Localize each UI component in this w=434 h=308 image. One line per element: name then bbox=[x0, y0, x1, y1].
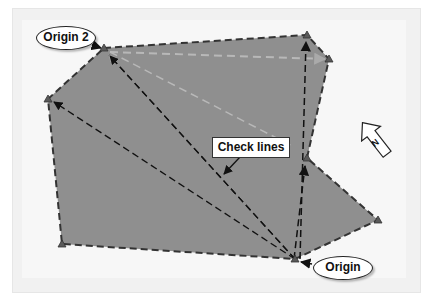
origin2-pointer bbox=[92, 45, 101, 48]
origin-label: Origin bbox=[325, 260, 360, 274]
origin-pointer bbox=[301, 262, 312, 264]
origin-callout: Origin bbox=[313, 256, 373, 280]
check-lines-label: Check lines bbox=[218, 140, 285, 154]
check-lines-callout: Check lines bbox=[212, 137, 290, 158]
origin2-label: Origin 2 bbox=[43, 30, 88, 44]
origin2-callout: Origin 2 bbox=[36, 26, 96, 50]
